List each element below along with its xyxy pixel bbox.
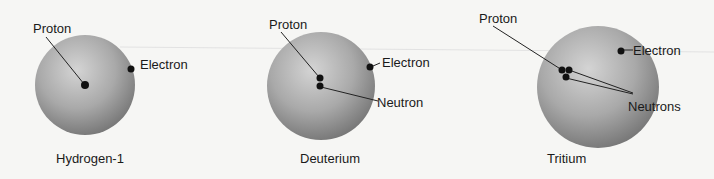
- proton-label: Proton: [269, 17, 307, 32]
- atom-name: Deuterium: [300, 151, 360, 166]
- atom-tritium: Proton Electron Neutrons Tritium: [479, 11, 681, 166]
- neutron-label: Neutron: [377, 95, 423, 110]
- proton-label: Proton: [479, 11, 517, 26]
- atom-deuterium: Proton Electron Neutron Deuterium: [267, 17, 430, 166]
- electron-label: Electron: [633, 43, 681, 58]
- electron-label: Electron: [382, 55, 430, 70]
- proton-label: Proton: [33, 21, 71, 36]
- atom-name: Hydrogen-1: [56, 151, 124, 166]
- neutron-dot: [317, 83, 324, 90]
- electron-dot: [128, 66, 135, 73]
- neutrons-label: Neutrons: [628, 99, 681, 114]
- neutron-dot: [563, 74, 570, 81]
- isotope-diagram: Proton Electron Hydrogen-1 Proton Electr…: [0, 0, 714, 179]
- proton-dot: [81, 81, 89, 89]
- electron-label: Electron: [140, 57, 188, 72]
- atom-hydrogen-1: Proton Electron Hydrogen-1: [33, 21, 188, 166]
- atom-name: Tritium: [547, 151, 586, 166]
- neutron-dot: [566, 67, 573, 74]
- electron-dot: [367, 64, 374, 71]
- proton-dot: [317, 75, 324, 82]
- proton-dot: [559, 67, 566, 74]
- electron-dot: [618, 48, 625, 55]
